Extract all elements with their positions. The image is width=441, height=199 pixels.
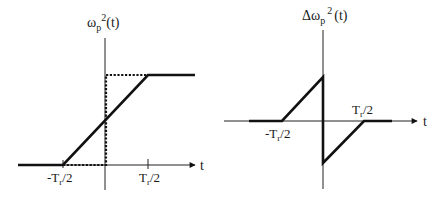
left-y-label: ωp2(t) — [87, 12, 120, 33]
right-tick-pos-label: Tr/2 — [352, 102, 373, 119]
diagram-canvas: ωp2(t) t -Tr/2 Tr/2 Δωp2(t) t -Tr/2 Tr/2 — [0, 0, 441, 199]
right-x-label: t — [423, 114, 427, 129]
right-difference-curve — [249, 77, 392, 163]
left-tick-pos-label: Tr/2 — [139, 170, 160, 187]
right-y-label: Δωp2(t) — [302, 5, 348, 26]
left-tick-neg-label: -Tr/2 — [47, 170, 72, 187]
right-plot: Δωp2(t) t -Tr/2 Tr/2 — [224, 5, 427, 189]
right-tick-neg-label: -Tr/2 — [265, 126, 290, 143]
left-plot: ωp2(t) t -Tr/2 Tr/2 — [18, 12, 204, 190]
left-x-label: t — [200, 158, 204, 173]
